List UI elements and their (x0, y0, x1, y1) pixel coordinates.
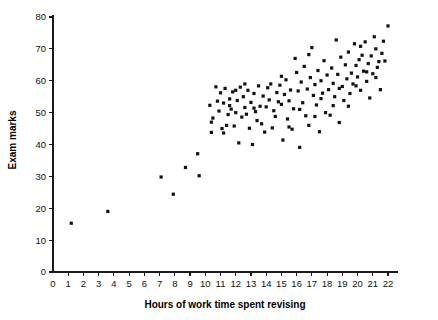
data-point (242, 95, 245, 98)
x-tick-label-0: 0 (50, 278, 55, 289)
data-point (284, 78, 287, 81)
data-point (312, 94, 315, 97)
data-point (106, 210, 109, 213)
x-tick-label-16: 16 (291, 278, 302, 289)
data-point (265, 105, 268, 108)
data-point (338, 121, 341, 124)
data-point (333, 95, 336, 98)
data-point (354, 64, 357, 67)
data-point (210, 121, 213, 124)
data-point (365, 80, 368, 83)
data-point (332, 104, 335, 107)
data-point (280, 103, 283, 106)
data-point (198, 174, 201, 177)
data-point (160, 175, 163, 178)
data-point (374, 76, 377, 79)
x-axis-title: Hours of work time spent revising (144, 299, 305, 310)
data-point (339, 56, 342, 59)
data-point (353, 42, 356, 45)
data-point (254, 110, 257, 113)
data-point (298, 108, 301, 111)
y-tick-label-20: 20 (35, 203, 46, 214)
data-point (345, 77, 348, 80)
data-point (258, 105, 261, 108)
data-point (327, 88, 330, 91)
data-point (376, 66, 379, 69)
data-point (380, 52, 383, 55)
data-point (357, 58, 360, 61)
plot-area: 01020304050607080 0123456789101112131415… (0, 0, 438, 320)
data-point (237, 141, 240, 144)
data-point (246, 89, 249, 92)
data-point (386, 24, 389, 27)
data-point (313, 83, 316, 86)
x-tick-label-10: 10 (200, 278, 211, 289)
data-point (344, 63, 347, 66)
data-point (342, 99, 345, 102)
x-tick-label-2: 2 (81, 278, 86, 289)
data-point (371, 72, 374, 75)
data-points-layer (70, 24, 390, 225)
data-point (275, 91, 278, 94)
x-tick-label-22: 22 (383, 278, 394, 289)
data-point (300, 80, 303, 83)
x-tick-label-5: 5 (126, 278, 131, 289)
data-point (240, 115, 243, 118)
data-point (251, 143, 254, 146)
x-tick-label-18: 18 (322, 278, 333, 289)
data-point (234, 111, 237, 114)
data-point (347, 105, 350, 108)
data-point (367, 62, 370, 65)
x-tick-label-20: 20 (352, 278, 363, 289)
data-point (278, 84, 281, 87)
data-point (217, 109, 220, 112)
data-point (286, 117, 289, 120)
x-tick-label-7: 7 (157, 278, 162, 289)
data-point (292, 107, 295, 110)
x-tick-label-9: 9 (187, 278, 192, 289)
data-point (269, 82, 272, 85)
data-point (304, 114, 307, 117)
data-point (220, 127, 223, 130)
data-point (377, 60, 380, 63)
data-point (301, 101, 304, 104)
data-point (236, 99, 239, 102)
data-point (283, 93, 286, 96)
data-point (307, 124, 310, 127)
data-point (316, 69, 319, 72)
x-tick-label-8: 8 (172, 278, 177, 289)
data-point (373, 35, 376, 38)
data-point (243, 82, 246, 85)
data-point (262, 94, 265, 97)
data-point (268, 98, 271, 101)
data-point (303, 65, 306, 68)
data-point (277, 100, 280, 103)
data-point (248, 127, 251, 130)
data-point (335, 38, 338, 41)
data-point (263, 130, 266, 133)
y-tick-label-80: 80 (35, 11, 46, 22)
data-point (239, 86, 242, 89)
data-point (225, 124, 228, 127)
data-point (322, 59, 325, 62)
data-point (336, 73, 339, 76)
data-point (341, 85, 344, 88)
x-tick-label-12: 12 (230, 278, 241, 289)
data-point (348, 92, 351, 95)
data-point (307, 53, 310, 56)
data-point (214, 85, 217, 88)
data-point (252, 107, 255, 110)
data-point (350, 72, 353, 75)
data-point (319, 97, 322, 100)
data-point (223, 87, 226, 90)
data-point (359, 89, 362, 92)
data-point (227, 113, 230, 116)
y-tick-label-40: 40 (35, 139, 46, 150)
x-tick-label-17: 17 (307, 278, 318, 289)
y-tick-label-30: 30 (35, 171, 46, 182)
data-point (233, 124, 236, 127)
data-point (315, 103, 318, 106)
data-point (298, 146, 301, 149)
data-point (70, 222, 73, 225)
data-point (319, 79, 322, 82)
